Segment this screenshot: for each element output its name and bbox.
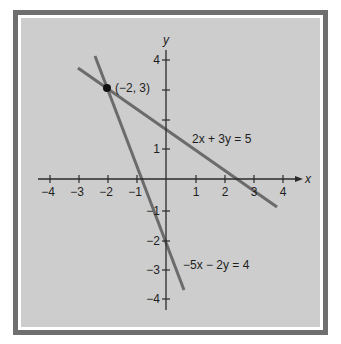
x-tick-label: 4	[280, 185, 287, 199]
x-tick-label: −4	[41, 185, 55, 199]
x-tick-label: 3	[251, 185, 258, 199]
y-tick-label: −2	[146, 234, 160, 248]
y-tick-label: −4	[146, 292, 160, 306]
y-tick-label: 1	[153, 142, 160, 156]
intersection-point	[103, 84, 111, 92]
x-tick-label: 2	[222, 185, 229, 199]
x-tick-label: 1	[193, 185, 200, 199]
y-axis	[162, 50, 170, 310]
x-tick-labels: −4 −3 −2 −1 1 2 3 4	[41, 185, 287, 199]
equation-label-1: 2x + 3y = 5	[192, 132, 252, 146]
equation-label-2: −5x − 2y = 4	[183, 258, 250, 272]
x-axis-arrow-icon	[295, 176, 303, 182]
y-tick-label: 4	[153, 53, 160, 67]
y-tick-label: −3	[146, 263, 160, 277]
graph: x y −4 −3 −2 −1 1 2 3 4 4 1 −1 −2 −3 −4 …	[0, 0, 341, 344]
x-axis	[38, 175, 303, 183]
x-tick-label: −3	[70, 185, 84, 199]
y-axis-label: y	[162, 33, 170, 47]
x-axis-label: x	[304, 172, 312, 186]
x-tick-label: −2	[99, 185, 113, 199]
y-tick-label: −1	[146, 204, 160, 218]
point-label: (−2, 3)	[115, 81, 150, 95]
x-tick-label: −1	[128, 185, 142, 199]
